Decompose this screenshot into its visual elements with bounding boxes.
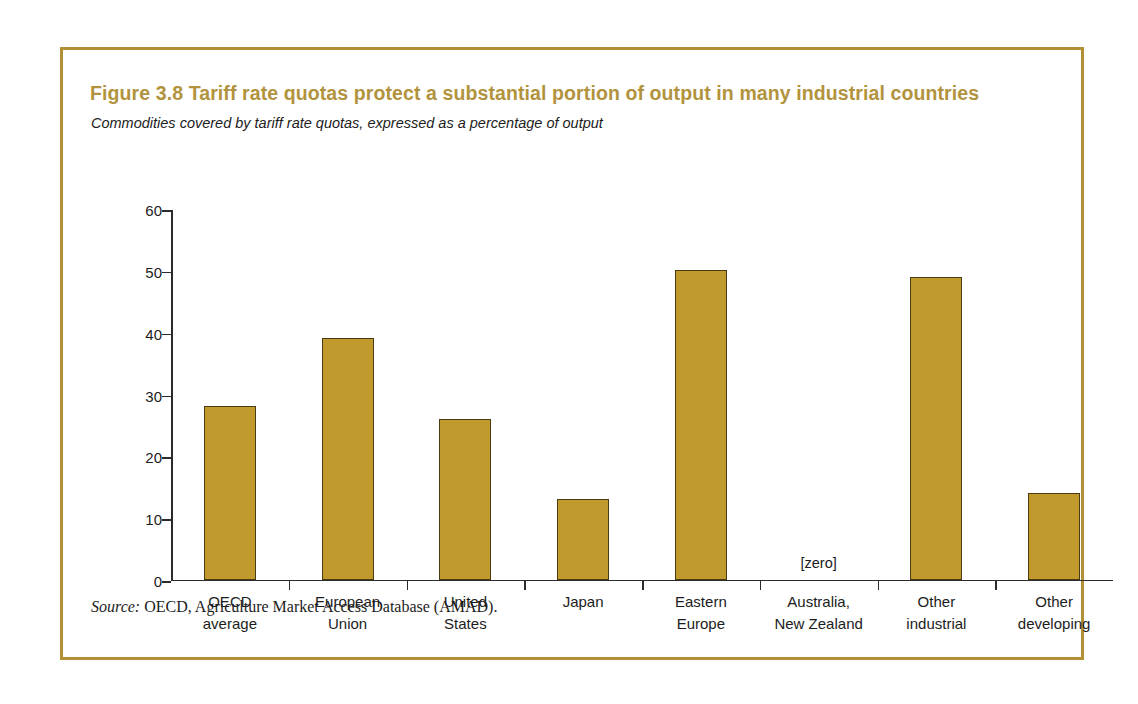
zero-annotation: [zero] — [800, 555, 836, 571]
x-category-label: EasternEurope — [675, 591, 727, 635]
bar-group: Otherindustrial — [878, 210, 996, 581]
x-category-label-line: Eastern — [675, 591, 727, 613]
x-tick-mark — [878, 581, 880, 590]
bar-group: [zero]Australia,New Zealand — [760, 210, 878, 581]
figure-panel: Figure 3.8 Tariff rate quotas protect a … — [60, 47, 1084, 660]
figure-title: Figure 3.8 Tariff rate quotas protect a … — [90, 82, 979, 105]
bar — [675, 270, 727, 579]
bar-group: Japan — [524, 210, 642, 581]
x-category-label-line: States — [444, 613, 487, 635]
y-tick-mark — [162, 272, 171, 274]
x-category-label-line: New Zealand — [774, 613, 862, 635]
y-tick-label: 20 — [145, 449, 162, 466]
x-tick-mark — [995, 581, 997, 590]
x-tick-mark — [642, 581, 644, 590]
source-label: Source: — [91, 598, 140, 615]
bar-group: Otherdeveloping — [995, 210, 1113, 581]
bar — [204, 406, 256, 579]
chart-plot-area: 0102030405060 OECDaverageEuropeanUnionUn… — [171, 210, 1113, 581]
x-category-label-line: Other — [1018, 591, 1091, 613]
x-tick-mark — [760, 581, 762, 590]
x-category-label: Japan — [563, 591, 604, 613]
x-category-label-line: Japan — [563, 591, 604, 613]
y-tick-label: 50 — [145, 263, 162, 280]
y-tick-mark — [162, 457, 171, 459]
bar-group: OECDaverage — [171, 210, 289, 581]
y-tick-mark — [162, 396, 171, 398]
y-tick-label: 40 — [145, 325, 162, 342]
figure-subtitle: Commodities covered by tariff rate quota… — [91, 115, 603, 131]
bar — [557, 499, 609, 579]
x-category-label-line: Australia, — [774, 591, 862, 613]
x-category-label-line: industrial — [906, 613, 966, 635]
x-category-label: Otherdeveloping — [1018, 591, 1091, 635]
y-tick-label: 10 — [145, 511, 162, 528]
y-tick-label: 30 — [145, 387, 162, 404]
source-note: Source: OECD, Agriculture Market Access … — [91, 598, 497, 616]
x-category-label-line: developing — [1018, 613, 1091, 635]
x-category-label: Otherindustrial — [906, 591, 966, 635]
source-text: OECD, Agriculture Market Access Database… — [140, 598, 497, 615]
bar-group: UnitedStates — [407, 210, 525, 581]
x-tick-mark — [289, 581, 291, 590]
x-tick-mark — [407, 581, 409, 590]
bar — [1028, 493, 1080, 580]
y-tick-mark — [162, 581, 171, 583]
x-tick-mark — [524, 581, 526, 590]
bar — [439, 419, 491, 580]
y-tick-label: 60 — [145, 202, 162, 219]
x-category-label: Australia,New Zealand — [774, 591, 862, 635]
y-tick-mark — [162, 334, 171, 336]
bar — [910, 277, 962, 580]
x-category-label-line: average — [203, 613, 257, 635]
x-category-label-line: Europe — [675, 613, 727, 635]
bar — [322, 338, 374, 579]
y-tick-mark — [162, 210, 171, 212]
bar-group: EasternEurope — [642, 210, 760, 581]
x-category-label-line: Union — [315, 613, 380, 635]
bar-group: EuropeanUnion — [289, 210, 407, 581]
x-category-label-line: Other — [906, 591, 966, 613]
y-tick-label: 0 — [154, 573, 162, 590]
y-tick-mark — [162, 519, 171, 521]
